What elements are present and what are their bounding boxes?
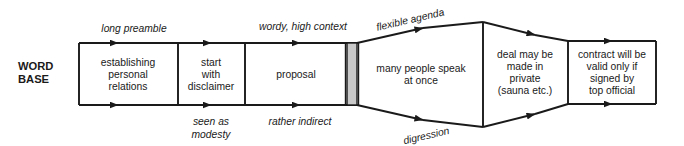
- top-arrow-4-diagonal: [357, 28, 423, 43]
- stage-6-line-2: valid only if: [587, 61, 638, 72]
- word-base-label: WORD BASE: [18, 60, 53, 85]
- stage-deal-may-be-made-in-private: deal may be made in private (sauna etc.): [497, 49, 553, 96]
- stage-proposal: proposal: [276, 69, 316, 80]
- stage-4-line-1: many people speak: [376, 63, 466, 74]
- stage-6-line-4: top official: [589, 85, 635, 96]
- top-flow-line: [79, 22, 656, 105]
- bottom-seg-4b: [423, 120, 483, 127]
- stage-2-line-1: start: [201, 57, 221, 68]
- annotation-rather-indirect: rather indirect: [269, 116, 333, 127]
- annotation-digression: digression: [402, 125, 450, 146]
- stage-1-line-3: relations: [109, 81, 148, 92]
- stage-start-with-disclaimer: start with disclaimer: [188, 57, 235, 92]
- top-arrow-5-diagonal: [483, 22, 535, 35]
- annotation-seen-as-modesty-line-2: modesty: [192, 129, 232, 140]
- stage-establishing-personal-relations: establishing personal relations: [101, 57, 156, 92]
- word-base-line-2: BASE: [18, 73, 50, 85]
- annotation-wordy-high-context: wordy, high context: [259, 21, 348, 32]
- stage-2-line-2: with: [201, 69, 221, 80]
- stage-5-line-3: private: [510, 73, 541, 84]
- stage-4-line-2: at once: [404, 75, 438, 86]
- stage-1-line-1: establishing: [101, 57, 156, 68]
- stage-6-line-3: signed by: [590, 73, 635, 84]
- annotation-flexible-agenda: flexible agenda: [375, 6, 445, 32]
- diagram-canvas: WORD BASE establishing personal relation…: [0, 0, 684, 146]
- annotation-seen-as-modesty-line-1: seen as: [193, 116, 229, 127]
- stage-6-line-1: contract will be: [578, 49, 646, 60]
- bottom-arrow-5-diagonal: [483, 114, 535, 127]
- stage-2-line-3: disclaimer: [188, 81, 235, 92]
- stage-1-line-2: personal: [108, 69, 148, 80]
- bottleneck-gray-bar: [347, 43, 357, 105]
- stage-3-line-1: proposal: [276, 69, 316, 80]
- stage-contract-will-be-valid: contract will be valid only if signed by…: [578, 49, 646, 96]
- annotation-long-preamble: long preamble: [101, 23, 167, 34]
- top-seg-4b: [423, 22, 483, 28]
- bottom-flow-line: [79, 104, 656, 127]
- stage-5-line-1: deal may be: [497, 49, 553, 60]
- stage-5-line-2: made in: [507, 61, 544, 72]
- word-base-flow-diagram: WORD BASE establishing personal relation…: [0, 0, 684, 146]
- word-base-line-1: WORD: [18, 60, 53, 72]
- stage-many-people-speak-at-once: many people speak at once: [376, 63, 466, 86]
- bottom-seg-5b: [535, 104, 568, 114]
- bottom-arrow-4-diagonal: [357, 105, 423, 120]
- top-seg-5b: [535, 35, 568, 41]
- stage-5-line-4: (sauna etc.): [498, 85, 552, 96]
